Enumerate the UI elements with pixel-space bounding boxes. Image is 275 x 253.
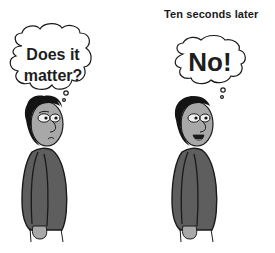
thought-text-does-it-matter: Does it matter?	[18, 44, 88, 86]
sweater-icon	[22, 148, 67, 230]
character-thinking-illustration	[0, 0, 137, 253]
thought-text-no: No!	[179, 47, 241, 77]
head-icon	[175, 96, 213, 146]
sweater-icon	[172, 148, 217, 230]
thought-line-2: matter?	[18, 65, 88, 86]
panel-after: No!	[137, 0, 275, 253]
head-icon	[25, 96, 63, 146]
character-answer-illustration	[137, 0, 275, 253]
thought-line-1: Does it	[18, 44, 88, 65]
panel-before: Does it matter?	[0, 0, 137, 253]
